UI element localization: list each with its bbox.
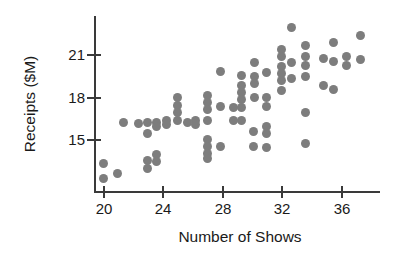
data-point xyxy=(356,55,365,64)
data-point xyxy=(329,57,338,66)
x-tick-mark-36 xyxy=(341,186,343,198)
data-point xyxy=(301,52,310,61)
data-point xyxy=(143,164,152,173)
data-point xyxy=(301,61,310,70)
data-point xyxy=(237,88,246,97)
y-axis-title: Receipts ($M) xyxy=(21,19,39,189)
y-tick-mark-18 xyxy=(87,97,101,99)
data-point xyxy=(237,116,246,125)
data-point xyxy=(301,139,310,148)
data-point xyxy=(262,102,271,111)
data-point xyxy=(250,93,259,102)
data-point xyxy=(262,68,271,77)
x-tick-label-32: 32 xyxy=(262,200,302,217)
data-point xyxy=(249,127,258,136)
data-point xyxy=(152,157,161,166)
data-point xyxy=(277,62,286,71)
data-point xyxy=(173,101,182,110)
data-point xyxy=(319,54,328,63)
data-point xyxy=(277,45,286,54)
data-point xyxy=(99,159,108,168)
y-tick-label-18: 18 xyxy=(45,89,85,106)
data-point xyxy=(262,143,271,152)
data-point xyxy=(203,154,212,163)
x-tick-label-28: 28 xyxy=(203,200,243,217)
y-axis-line xyxy=(94,16,96,193)
data-point xyxy=(277,69,286,78)
data-point xyxy=(250,72,259,81)
data-point xyxy=(203,98,212,107)
data-point xyxy=(119,118,128,127)
data-point xyxy=(356,31,365,40)
x-tick-mark-24 xyxy=(162,186,164,198)
data-point xyxy=(173,116,182,125)
x-axis-title: Number of Shows xyxy=(95,228,385,246)
data-point xyxy=(152,150,161,159)
data-point xyxy=(262,122,271,131)
x-tick-label-24: 24 xyxy=(143,200,183,217)
data-point xyxy=(152,122,161,131)
y-tick-mark-21 xyxy=(87,54,101,56)
data-point xyxy=(287,74,296,83)
data-point xyxy=(203,105,212,114)
data-point xyxy=(143,156,152,165)
data-point xyxy=(301,41,310,50)
data-point xyxy=(262,129,271,138)
data-point xyxy=(237,71,246,80)
data-point xyxy=(162,120,171,129)
data-point xyxy=(277,86,286,95)
data-point xyxy=(329,85,338,94)
data-point xyxy=(203,142,212,151)
x-tick-mark-28 xyxy=(222,186,224,198)
data-point xyxy=(191,116,200,125)
x-tick-label-36: 36 xyxy=(322,200,362,217)
data-point xyxy=(203,149,212,158)
data-point xyxy=(262,93,271,102)
data-point xyxy=(342,61,351,70)
data-point xyxy=(250,79,259,88)
data-point xyxy=(203,116,212,125)
data-point xyxy=(237,103,246,112)
data-point xyxy=(183,118,192,127)
x-tick-mark-20 xyxy=(103,186,105,198)
data-point xyxy=(173,108,182,117)
data-point xyxy=(237,95,246,104)
y-tick-label-21: 21 xyxy=(45,46,85,63)
data-point xyxy=(216,102,225,111)
data-point xyxy=(216,142,225,151)
data-point xyxy=(203,91,212,100)
y-tick-mark-15 xyxy=(87,139,101,141)
data-point xyxy=(152,118,161,127)
data-point xyxy=(229,103,238,112)
data-point xyxy=(342,52,351,61)
data-point xyxy=(99,174,108,183)
data-point xyxy=(216,67,225,76)
data-point xyxy=(277,52,286,61)
data-point xyxy=(237,81,246,90)
data-point xyxy=(301,108,310,117)
x-tick-mark-32 xyxy=(281,186,283,198)
data-point xyxy=(162,116,171,125)
data-point xyxy=(203,135,212,144)
data-point xyxy=(143,129,152,138)
scatter-plot-figure: 21 18 15 20 24 28 32 36 Number of Shows … xyxy=(0,0,395,273)
data-point xyxy=(191,120,200,129)
data-point xyxy=(329,38,338,47)
data-point xyxy=(229,116,238,125)
data-point xyxy=(173,93,182,102)
data-point xyxy=(301,72,310,81)
data-point xyxy=(250,58,259,67)
x-axis-line xyxy=(95,191,380,193)
x-tick-label-20: 20 xyxy=(84,200,124,217)
data-point xyxy=(143,118,152,127)
data-point xyxy=(287,23,296,32)
data-point xyxy=(319,81,328,90)
data-point xyxy=(249,142,258,151)
data-point xyxy=(277,76,286,85)
data-point xyxy=(134,119,143,128)
y-tick-label-15: 15 xyxy=(45,131,85,148)
data-point xyxy=(113,169,122,178)
data-point xyxy=(287,58,296,67)
